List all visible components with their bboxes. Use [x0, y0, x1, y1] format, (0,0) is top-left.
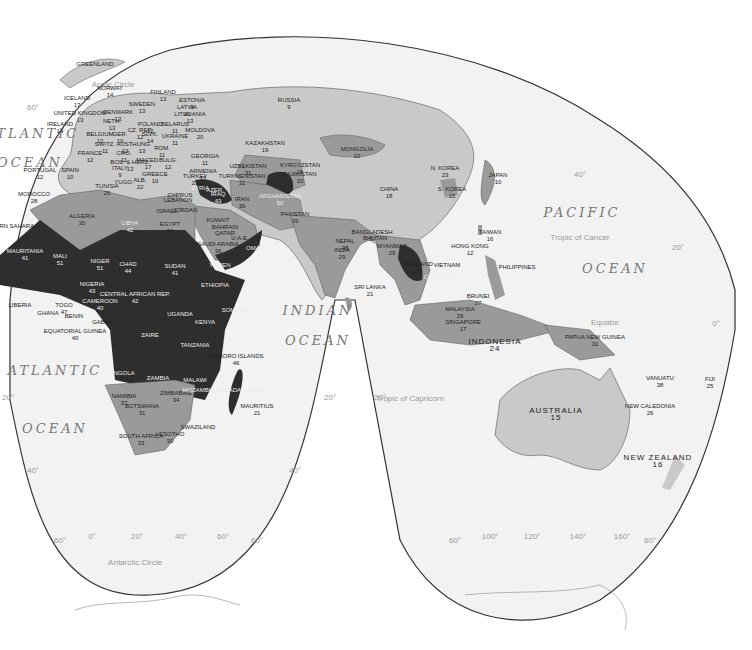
country-label-cambodia: CAMBODIA: [424, 274, 456, 281]
country-value: 39: [281, 218, 310, 225]
country-label-n-korea: N. KOREA23: [431, 165, 460, 179]
country-label-kazakhstan: KAZAKHSTAN19: [245, 140, 285, 154]
country-label-hung-: HUNG.13: [132, 141, 151, 155]
country-name: MALI: [53, 253, 67, 260]
country-label-mauritius: MAURITIUS21: [241, 403, 274, 417]
country-name: COMORO ISLANDS: [208, 353, 263, 360]
country-name: TURKEY: [183, 173, 207, 180]
country-label-morocco: MOROCCO28: [18, 191, 50, 205]
country-label-portugal: PORTUGAL12: [24, 167, 57, 181]
country-label-iran: IRAN36: [235, 196, 249, 210]
country-label-australia: AUSTRALIA15: [529, 407, 582, 421]
grid-60n: 60°: [27, 103, 39, 112]
country-name: GER.: [113, 131, 128, 138]
grid-40n: 40°: [574, 170, 586, 179]
country-label-russia: RUSSIA9: [278, 97, 300, 111]
country-name: BULG.: [159, 157, 177, 164]
country-name: MALAYSIA: [445, 306, 475, 313]
country-value: 36: [235, 203, 249, 210]
country-value: 13: [150, 96, 176, 103]
grid-b40: 40°: [175, 532, 187, 541]
country-value: 11: [95, 148, 115, 155]
country-name: BENIN: [65, 313, 83, 320]
country-value: 31: [125, 410, 159, 417]
grid-b100: 100°: [482, 532, 499, 541]
country-name: RUSSIA: [278, 97, 300, 104]
country-name: NAMIBIA: [112, 393, 137, 400]
country-value: 26: [625, 410, 675, 417]
country-label-india: INDIA29: [334, 247, 350, 261]
country-name: SOUTH AFRICA: [119, 433, 163, 440]
country-name: NIGER: [90, 258, 109, 265]
grid-0: 0°: [712, 319, 720, 328]
country-name: CHINA: [380, 186, 399, 193]
grid-b120: 120°: [524, 532, 541, 541]
country-value: 10: [142, 178, 167, 185]
country-name: SPAIN: [61, 167, 79, 174]
country-value: 44: [119, 268, 136, 275]
country-label-angola: ANGOLA: [109, 370, 134, 377]
country-name: S. KOREA: [438, 186, 466, 193]
country-label-jordan: JORDAN: [173, 207, 198, 214]
country-name: PAKISTAN: [281, 211, 310, 218]
country-label-philippines: PHILIPPINES: [498, 264, 535, 271]
country-value: 41: [7, 255, 44, 262]
country-value: 24: [468, 345, 521, 352]
country-label-tanzania: TANZANIA: [180, 342, 209, 349]
country-name: SOMALIA: [222, 307, 249, 314]
country-name: TAIWAN: [479, 229, 502, 236]
country-value: 23: [431, 172, 460, 179]
country-name: CHAD: [119, 261, 136, 268]
grid-b60e: 60°: [644, 536, 656, 545]
country-label-malaysia: MALAYSIA29: [445, 306, 475, 320]
country-label-kenya: KENYA: [195, 319, 215, 326]
country-label-lebanon: LEBANON: [164, 197, 193, 204]
country-name: BANGLADESH: [351, 229, 392, 236]
country-label-georgia: GEORGIA11: [191, 153, 219, 167]
country-label-indonesia: INDONESIA24: [468, 338, 521, 352]
grid-20s-b: 20°: [324, 393, 336, 402]
country-label-mozambique: MOZAMBIQUE: [182, 387, 223, 394]
country-name: MYANMAR: [377, 243, 407, 250]
country-label-italy: ITALY9: [112, 165, 128, 179]
grid-20s-c: 20°: [374, 393, 386, 402]
antarctic-circle-label: Antarctic Circle: [108, 558, 162, 567]
country-label-chad: CHAD44: [119, 261, 136, 275]
country-label-saudi-arabia: SAUDI ARABIA36: [197, 241, 239, 255]
country-value: 12: [24, 174, 57, 181]
country-name: PAPUA NEW GUINEA: [565, 334, 625, 341]
grid-b60c: 60°: [251, 536, 263, 545]
country-value: 12: [159, 164, 177, 171]
country-label-uganda: UGANDA: [167, 311, 193, 318]
country-label-south-africa: SOUTH AFRICA33: [119, 433, 163, 447]
country-label-tajikistan: TAJIKISTAN33: [283, 171, 316, 185]
grid-b160: 160°: [614, 532, 631, 541]
grid-b60a: 60°: [54, 536, 66, 545]
country-label-vanuatu: VANUATU38: [646, 375, 674, 389]
country-label-syria: SYRIA: [191, 185, 209, 192]
country-label-spain: SPAIN10: [61, 167, 79, 181]
country-name: MACED.: [136, 157, 159, 164]
country-value: 36: [197, 248, 239, 255]
country-label-neth-: NETH.13: [103, 118, 121, 132]
tropic-cancer-label: Tropic of Cancer: [551, 233, 610, 242]
country-value: 29: [377, 250, 407, 257]
country-name: GREECE: [142, 171, 167, 178]
country-label-japan: JAPAN10: [489, 172, 508, 186]
country-name: KUWAIT: [206, 217, 229, 224]
country-label-norway: NORWAY14: [97, 85, 123, 99]
country-value: 28: [18, 198, 50, 205]
country-value: 51: [90, 265, 109, 272]
grid-40s-b: 40°: [289, 466, 301, 475]
country-value: 18: [380, 193, 399, 200]
country-name: NETH.: [103, 118, 121, 125]
country-name: UNITED KINGDOM: [54, 110, 107, 117]
country-label-niger: NIGER51: [90, 258, 109, 272]
country-value: 25: [705, 383, 715, 390]
country-name: MOZAMBIQUE: [182, 387, 223, 394]
country-value: 17: [64, 102, 90, 109]
country-name: ANGOLA: [109, 370, 134, 377]
country-value: 14: [97, 92, 123, 99]
country-label-swaziland: SWAZILAND: [181, 424, 216, 431]
country-name: JORDAN: [173, 207, 198, 214]
